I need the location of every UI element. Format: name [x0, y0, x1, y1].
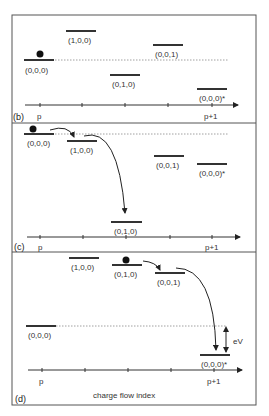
- level-label: (0,0,0)*: [199, 169, 225, 178]
- level-label: (0,1,0): [114, 270, 137, 279]
- level-label: (0,0,0): [25, 66, 48, 75]
- charge-flow-diagram: (0,0,0) (1,0,0) (0,1,0) (0,0,1) (0,0,0)*…: [0, 0, 269, 416]
- level-label: (0,0,1): [157, 278, 180, 287]
- panel-d: (1,0,0) (0,1,0) (0,0,1) (0,0,0) (0,0,0)*…: [15, 257, 243, 405]
- x-axis-label: charge flow index: [93, 391, 155, 400]
- tick-label-p: p: [38, 243, 43, 252]
- tick-label-p: p: [37, 112, 42, 121]
- level-label: (0,0,1): [156, 161, 179, 170]
- level-label: (1,0,0): [68, 36, 91, 45]
- transition-arrow: [50, 128, 74, 137]
- bias-label: eV: [233, 337, 243, 346]
- panel-label: (c): [14, 242, 25, 252]
- level-label: (0,0,0)*: [199, 94, 225, 103]
- level-label: (0,0,0): [27, 139, 50, 148]
- level-label: (0,1,0): [114, 227, 137, 236]
- level-label: (0,1,0): [112, 80, 135, 89]
- panel-label: (b): [13, 112, 24, 122]
- electron-dot: [123, 257, 130, 264]
- transition-arrow: [143, 261, 160, 270]
- tick-label-p1: p+1: [207, 377, 221, 386]
- level-label: (1,0,0): [71, 263, 94, 272]
- electron-dot: [30, 126, 37, 133]
- level-label: (0,0,0): [28, 331, 51, 340]
- panel-label: (d): [15, 394, 26, 404]
- tick-label-p: p: [39, 377, 44, 386]
- panel-c: (0,0,0) (1,0,0) (0,0,1) (0,0,0)* (0,1,0)…: [14, 126, 240, 253]
- figure-frame: [12, 15, 256, 405]
- electron-dot: [37, 51, 44, 58]
- level-label: (0,0,0)*: [201, 360, 227, 369]
- tick-label-p1: p+1: [205, 243, 219, 252]
- panel-b: (0,0,0) (1,0,0) (0,1,0) (0,0,1) (0,0,0)*…: [13, 31, 238, 122]
- level-label: (1,0,0): [70, 146, 93, 155]
- tick-label-p1: p+1: [204, 112, 218, 121]
- transition-arrow: [176, 268, 216, 350]
- level-label: (0,0,1): [155, 50, 178, 59]
